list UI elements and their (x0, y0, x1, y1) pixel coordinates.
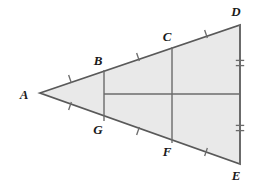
tick-AB (69, 75, 72, 83)
vertex-label-E: E (231, 168, 241, 183)
vertex-label-A: A (19, 87, 29, 102)
vertex-label-G: G (93, 122, 103, 137)
vertex-label-C: C (163, 29, 172, 44)
vertex-label-D: D (230, 4, 241, 19)
tick-stroke (69, 75, 72, 83)
vertex-label-F: F (162, 144, 172, 159)
geometry-figure: ABCDEFG (0, 0, 262, 191)
vertex-label-B: B (93, 53, 103, 68)
geometry-canvas: ABCDEFG (0, 0, 262, 191)
